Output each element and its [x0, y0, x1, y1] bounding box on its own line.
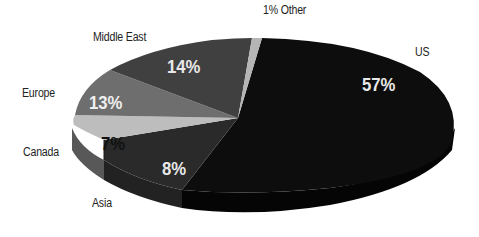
- pct-canada: 7%: [101, 133, 125, 155]
- label-other: 1% Other: [263, 3, 306, 17]
- pct-us: 57%: [362, 74, 395, 96]
- pct-middle-east: 14%: [167, 56, 200, 78]
- pie-chart: [0, 0, 479, 237]
- label-asia: Asia: [92, 196, 112, 210]
- label-middle-east: Middle East: [93, 30, 146, 44]
- pct-asia: 8%: [162, 158, 186, 180]
- pie-top: [73, 38, 454, 193]
- label-canada: Canada: [23, 145, 59, 159]
- label-europe: Europe: [22, 86, 55, 100]
- pct-europe: 13%: [89, 92, 122, 114]
- label-us: US: [415, 45, 429, 59]
